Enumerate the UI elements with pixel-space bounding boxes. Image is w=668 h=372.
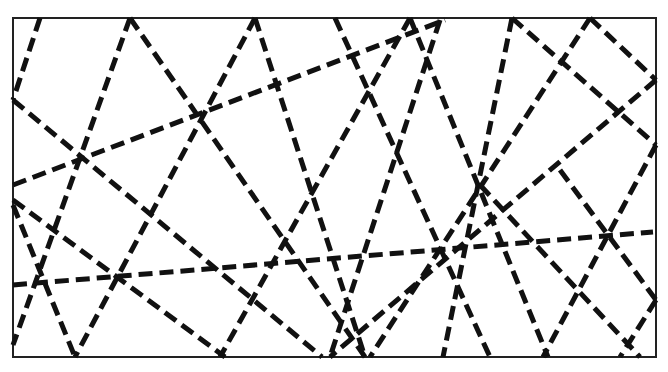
dashed-line-10 xyxy=(335,18,490,357)
dashed-line-14 xyxy=(443,18,512,357)
dashed-line-13 xyxy=(330,20,440,357)
dashed-line-0 xyxy=(13,18,40,100)
dashed-line-5 xyxy=(75,18,255,357)
line-diagram xyxy=(0,0,668,372)
dashed-line-17 xyxy=(590,18,656,80)
dashed-lines-group xyxy=(13,18,656,357)
dashed-line-21 xyxy=(620,300,656,357)
dashed-line-15 xyxy=(512,18,656,145)
dashed-line-9 xyxy=(13,232,653,285)
